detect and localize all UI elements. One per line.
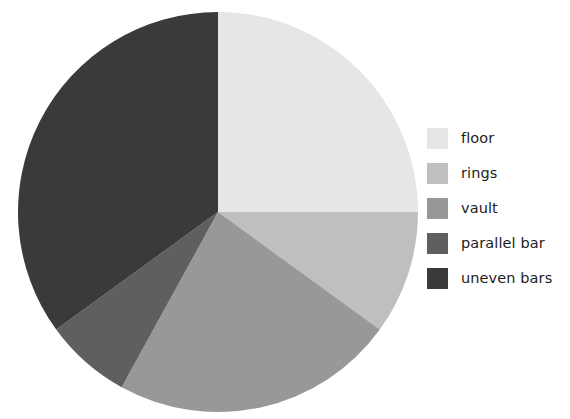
legend-item-label: vault [461, 201, 498, 216]
legend-swatch-icon [427, 268, 448, 289]
chart-legend: floorringsvaultparallel baruneven bars [427, 121, 567, 296]
pie-slice-group [18, 12, 418, 412]
legend-swatch-icon [427, 233, 448, 254]
legend-swatch-icon [427, 198, 448, 219]
legend-item-vault[interactable]: vault [427, 191, 567, 226]
legend-item-uneven-bars[interactable]: uneven bars [427, 261, 567, 296]
pie-svg [0, 0, 425, 419]
legend-swatch-icon [427, 163, 448, 184]
legend-item-floor[interactable]: floor [427, 121, 567, 156]
legend-item-parallel-bar[interactable]: parallel bar [427, 226, 567, 261]
pie-plot-area [0, 0, 425, 419]
pie-chart-figure: floorringsvaultparallel baruneven bars [0, 0, 570, 419]
legend-item-label: floor [461, 131, 494, 146]
legend-item-label: parallel bar [461, 236, 545, 251]
legend-swatch-icon [427, 128, 448, 149]
legend-item-label: uneven bars [461, 271, 552, 286]
pie-slice-floor[interactable] [218, 12, 418, 212]
legend-item-rings[interactable]: rings [427, 156, 567, 191]
legend-item-label: rings [461, 166, 497, 181]
